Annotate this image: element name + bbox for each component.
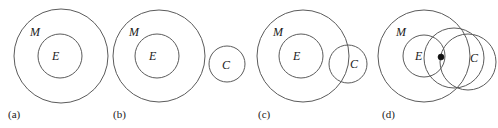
venn-diagram-figure: ME(a)MEC(b)MEC(c)MEC(d) (0, 0, 498, 128)
panel-b: MEC(b) (113, 10, 245, 121)
figure-root: ME(a)MEC(b)MEC(c)MEC(d) (0, 0, 498, 128)
circle-M (257, 10, 349, 102)
circle-E (135, 34, 179, 78)
panel-caption-b: (b) (113, 108, 126, 121)
panel-caption-a: (a) (8, 108, 21, 121)
label-M: M (395, 25, 407, 39)
circle-E (279, 34, 323, 78)
panel-a: ME(a) (8, 9, 108, 121)
circle-M (113, 10, 205, 102)
circle-M (14, 9, 108, 103)
element-point (438, 54, 444, 60)
label-M: M (29, 25, 41, 39)
label-E: E (292, 49, 301, 63)
label-E: E (51, 49, 60, 63)
panel-c: MEC(c) (257, 10, 367, 121)
label-M: M (128, 25, 140, 39)
label-E: E (414, 49, 423, 63)
label-M: M (272, 25, 284, 39)
label-C: C (350, 57, 359, 71)
label-C: C (222, 58, 231, 72)
panel-d: MEC(d) (378, 10, 496, 121)
circle-E (38, 34, 82, 78)
panel-caption-d: (d) (382, 108, 395, 121)
label-E: E (148, 49, 157, 63)
panel-caption-c: (c) (258, 108, 271, 121)
label-C: C (470, 51, 479, 65)
